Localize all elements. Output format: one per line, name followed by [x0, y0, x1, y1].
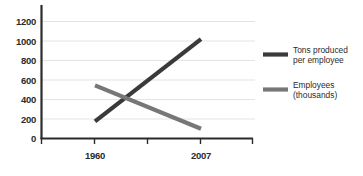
y-label-600: 600 [21, 75, 36, 86]
y-label-400: 400 [21, 94, 36, 105]
legend-label-tons-line1: Tons produced [293, 45, 348, 55]
chart-legend: Tons produced per employee Employees (th… [263, 45, 348, 100]
x-label-2007: 2007 [191, 150, 211, 161]
y-label-800: 800 [21, 55, 36, 66]
legend-label-employees-line2: (thousands) [293, 90, 337, 100]
y-label-1200: 1200 [16, 16, 36, 27]
legend-label-tons-line2: per employee [293, 55, 344, 65]
line-chart-figure: 1200 1000 800 600 400 200 0 1960 2007 To… [0, 0, 363, 176]
legend-label-employees-line1: Employees [293, 80, 334, 90]
y-label-1000: 1000 [16, 36, 36, 47]
x-axis-labels: 1960 2007 [85, 150, 211, 161]
y-label-0: 0 [31, 133, 36, 144]
chart-plot-area: 1200 1000 800 600 400 200 0 1960 2007 To… [0, 0, 363, 176]
x-label-1960: 1960 [85, 150, 105, 161]
y-axis-labels: 1200 1000 800 600 400 200 0 [16, 16, 36, 144]
gridlines [41, 22, 255, 120]
y-label-200: 200 [21, 114, 36, 125]
